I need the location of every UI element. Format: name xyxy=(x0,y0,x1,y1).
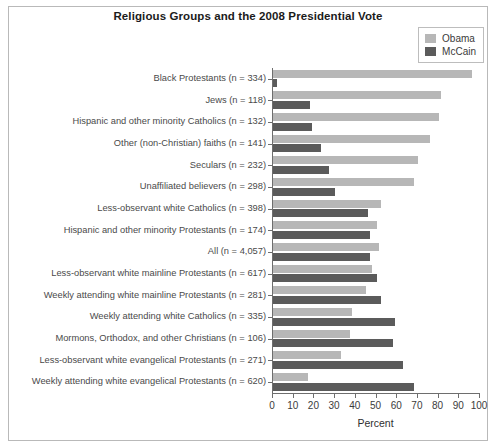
y-axis-tick xyxy=(268,360,272,361)
bar-mccain xyxy=(273,101,310,109)
bar-obama xyxy=(273,135,430,143)
x-axis-tick xyxy=(417,393,418,398)
bar-obama xyxy=(273,373,308,381)
legend-swatch-obama xyxy=(425,34,436,43)
y-axis-tick xyxy=(268,382,272,383)
x-axis-tick-label: 20 xyxy=(308,400,319,411)
y-axis-tick xyxy=(268,317,272,318)
y-axis-label: Weekly attending white Catholics (n = 33… xyxy=(0,311,266,322)
bar-obama xyxy=(273,91,441,99)
y-axis-label: Mormons, Orthodox, and other Christians … xyxy=(0,333,266,344)
y-axis-label: Less-observant white evangelical Protest… xyxy=(0,355,266,366)
bar-group xyxy=(272,176,479,198)
y-axis-label: Unaffiliated believers (n = 298) xyxy=(0,181,266,192)
bar-mccain xyxy=(273,231,370,239)
x-axis-tick-label: 50 xyxy=(370,400,381,411)
bar-mccain xyxy=(273,339,393,347)
x-axis-tick xyxy=(376,393,377,398)
legend-swatch-mccain xyxy=(425,47,436,56)
plot-area xyxy=(272,68,479,393)
x-axis-tick xyxy=(396,393,397,398)
bar-obama xyxy=(273,221,377,229)
chart-legend: Obama McCain xyxy=(418,27,484,63)
bar-mccain xyxy=(273,318,395,326)
bar-mccain xyxy=(273,188,335,196)
chart-figure: Religious Groups and the 2008 Presidenti… xyxy=(0,0,496,447)
bar-group xyxy=(272,155,479,177)
bar-obama xyxy=(273,265,372,273)
y-axis-label: All (n = 4,057) xyxy=(0,246,266,257)
bar-mccain xyxy=(273,274,377,282)
x-axis-tick xyxy=(334,393,335,398)
bar-group xyxy=(272,90,479,112)
bar-group xyxy=(272,111,479,133)
bar-group xyxy=(272,371,479,393)
y-axis-tick xyxy=(268,339,272,340)
bar-group xyxy=(272,328,479,350)
bar-group xyxy=(272,263,479,285)
bar-group xyxy=(272,241,479,263)
bar-obama xyxy=(273,156,418,164)
legend-item-obama: Obama xyxy=(425,32,476,45)
bar-mccain xyxy=(273,296,381,304)
bar-mccain xyxy=(273,361,403,369)
bar-mccain xyxy=(273,123,312,131)
bar-obama xyxy=(273,286,366,294)
x-axis-tick-label: 60 xyxy=(391,400,402,411)
legend-label-mccain: McCain xyxy=(442,46,476,57)
x-axis-tick-label: 70 xyxy=(411,400,422,411)
y-axis-label: Less-observant white mainline Protestant… xyxy=(0,268,266,279)
bar-mccain xyxy=(273,144,321,152)
bar-mccain xyxy=(273,209,368,217)
y-axis-label: Seculars (n = 232) xyxy=(0,160,266,171)
y-axis-tick xyxy=(268,230,272,231)
y-axis-label: Weekly attending white evangelical Prote… xyxy=(0,376,266,387)
legend-item-mccain: McCain xyxy=(425,45,476,58)
bar-obama xyxy=(273,70,472,78)
x-axis-tick xyxy=(438,393,439,398)
y-axis-label: Hispanic and other minority Protestants … xyxy=(0,225,266,236)
bar-group xyxy=(272,133,479,155)
x-axis-tick-label: 90 xyxy=(453,400,464,411)
y-axis-tick xyxy=(268,100,272,101)
x-axis-tick-label: 40 xyxy=(349,400,360,411)
x-axis-title: Percent xyxy=(272,417,479,429)
bar-mccain xyxy=(273,166,329,174)
y-axis-tick xyxy=(268,252,272,253)
x-axis-tick-label: 80 xyxy=(432,400,443,411)
y-axis-label: Jews (n = 118) xyxy=(0,95,266,106)
bar-group xyxy=(272,350,479,372)
legend-label-obama: Obama xyxy=(442,33,475,44)
bar-mccain xyxy=(273,383,414,391)
y-axis-label: Less-observant white Catholics (n = 398) xyxy=(0,203,266,214)
bar-group xyxy=(272,220,479,242)
x-axis-tick xyxy=(458,393,459,398)
bar-obama xyxy=(273,113,439,121)
y-axis-tick xyxy=(268,209,272,210)
y-axis-tick xyxy=(268,79,272,80)
x-axis-tick-labels: 0102030405060708090100 xyxy=(272,400,482,414)
y-axis-tick xyxy=(268,295,272,296)
x-axis-tick xyxy=(272,393,273,398)
chart-title: Religious Groups and the 2008 Presidenti… xyxy=(0,10,496,22)
bar-group xyxy=(272,68,479,90)
bar-group xyxy=(272,285,479,307)
y-axis-tick xyxy=(268,122,272,123)
y-axis-label: Other (non-Christian) faiths (n = 141) xyxy=(0,138,266,149)
bar-mccain xyxy=(273,79,277,87)
x-axis-tick-label: 100 xyxy=(471,400,488,411)
y-axis-tick xyxy=(268,274,272,275)
y-axis-label: Hispanic and other minority Catholics (n… xyxy=(0,116,266,127)
y-axis-tick xyxy=(268,165,272,166)
bar-group xyxy=(272,306,479,328)
x-axis-tick xyxy=(355,393,356,398)
x-axis-tick xyxy=(313,393,314,398)
y-axis-label: Black Protestants (n = 334) xyxy=(0,73,266,84)
bar-obama xyxy=(273,330,350,338)
x-axis-tick-label: 30 xyxy=(329,400,340,411)
x-axis-tick xyxy=(293,393,294,398)
bar-obama xyxy=(273,308,352,316)
bar-obama xyxy=(273,243,379,251)
bar-obama xyxy=(273,200,381,208)
bar-mccain xyxy=(273,253,370,261)
